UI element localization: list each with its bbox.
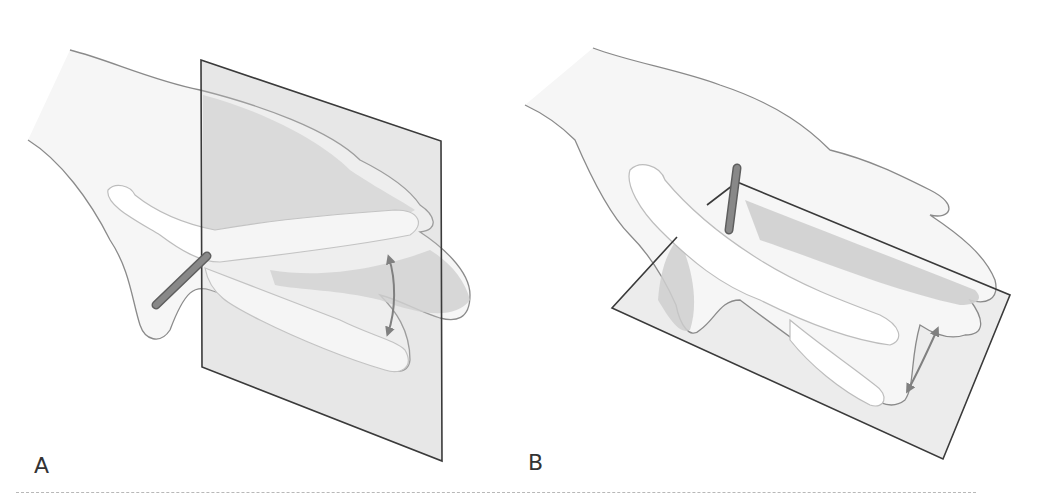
figure: A B bbox=[0, 0, 1039, 499]
panel-a-illustration bbox=[28, 50, 470, 461]
panel-b-illustration bbox=[525, 48, 1010, 459]
illustration bbox=[0, 0, 1039, 499]
panel-label-b: B bbox=[528, 452, 543, 474]
panel-label-a: A bbox=[34, 455, 49, 477]
dashed-divider bbox=[16, 492, 976, 493]
plane-a-edge bbox=[201, 60, 442, 461]
